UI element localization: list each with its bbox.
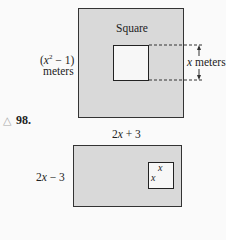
cutout-top-label: x <box>158 162 162 174</box>
rect-left-label: 2x − 3 <box>36 171 65 183</box>
problem-number: 98. <box>16 114 31 126</box>
problem-marker-icon: △ <box>3 114 11 126</box>
rect-top-label: 2x + 3 <box>112 128 141 140</box>
cutout-left-label: x <box>151 172 155 184</box>
inner-side-label: x meters <box>186 56 226 68</box>
